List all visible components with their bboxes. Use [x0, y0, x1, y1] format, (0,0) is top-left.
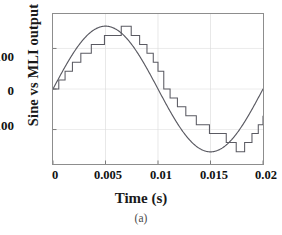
- y-tick-label-100: 100: [0, 49, 14, 65]
- waveform-plot: [53, 14, 263, 164]
- plot-area: [52, 13, 264, 165]
- y-tick-label-0: 0: [0, 83, 14, 99]
- y-axis-title: Sine vs MLI output: [23, 0, 43, 145]
- y-tick-label-minus-100: -100: [0, 118, 14, 134]
- x-axis-title: Time (s): [0, 190, 282, 207]
- x-tick-label-002: 0.02: [231, 168, 282, 183]
- figure-panel: Sine vs MLI output 100 0 -100 0 0.005 0.…: [0, 0, 282, 235]
- figure-caption: (a): [0, 212, 282, 224]
